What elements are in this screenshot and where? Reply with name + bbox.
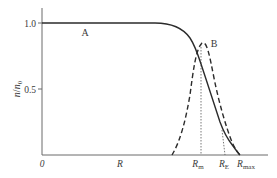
y-axis-label: n/n0 bbox=[11, 80, 24, 97]
y-tick-label-05: 0.5 bbox=[24, 85, 36, 95]
chart-svg: 1.0 0.5 n/n0 0 R Rm RE Rmax A B bbox=[0, 0, 277, 178]
curve-b-dashed bbox=[172, 43, 240, 155]
density-profile-chart: 1.0 0.5 n/n0 0 R Rm RE Rmax A B bbox=[0, 0, 277, 178]
x-label-rmax: Rmax bbox=[236, 159, 255, 171]
x-origin-label: 0 bbox=[40, 159, 45, 169]
curve-a-label: A bbox=[81, 27, 89, 38]
curve-b-label: B bbox=[211, 38, 218, 49]
x-label-re: RE bbox=[218, 159, 229, 171]
y-tick-label-1: 1.0 bbox=[24, 19, 36, 29]
x-label-rm: Rm bbox=[191, 159, 204, 171]
x-axis-label: R bbox=[116, 159, 123, 169]
